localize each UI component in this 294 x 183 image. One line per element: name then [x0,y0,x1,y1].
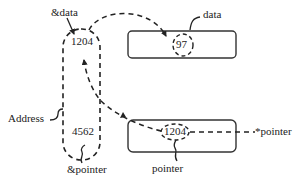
data-value: 97 [176,39,187,50]
address-top-value: 1204 [71,36,93,47]
diagram-graphics [0,0,294,183]
address-bottom-value: 4562 [72,126,94,137]
data-label-leader [190,17,200,30]
address-label-leader [50,109,63,120]
amp-pointer-leader [81,145,85,163]
pointer-value: 1204 [164,126,186,137]
address-label: Address [8,113,44,124]
amp-pointer-label: &pointer [67,164,107,175]
address-to-data-arrow [89,13,166,36]
pointer-memory-diagram: &data 1204 4562 Address &pointer data 97… [0,0,294,183]
pointer-label: pointer [152,163,183,174]
pointer-label-leader [174,140,177,161]
address-column-outline [63,29,100,160]
pointer-box-entry-arrowhead [120,112,126,118]
amp-data-leader [67,18,74,34]
amp-data-label: &data [51,7,78,18]
deref-pointer-label: *pointer [255,126,292,137]
data-label: data [203,9,221,20]
